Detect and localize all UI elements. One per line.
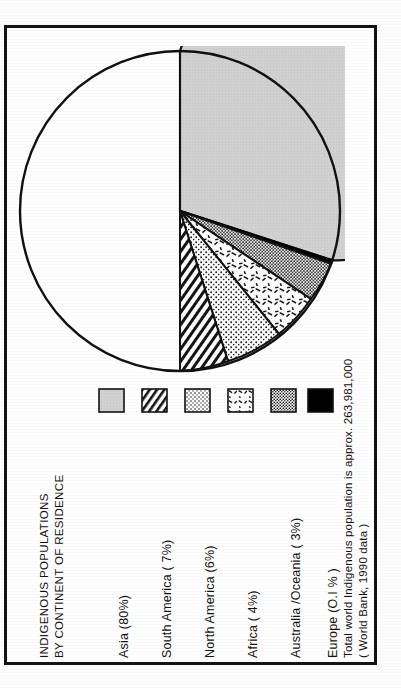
legend-label-south-america: South America ( 7%) bbox=[160, 540, 174, 658]
chart-page: INDIGENOUS POPULATIONS BY CONTINENT OF R… bbox=[0, 0, 401, 688]
legend-swatch-asia bbox=[99, 389, 124, 412]
legend-label-australia-oceania: Australia /Oceania ( 3%) bbox=[289, 518, 303, 658]
legend-label-africa: Africa ( 4%) bbox=[246, 590, 260, 658]
legend-swatch-australia-oceania bbox=[271, 389, 296, 412]
legend-label-north-america: North America (6%) bbox=[203, 545, 217, 658]
legend-swatch-svg bbox=[98, 388, 334, 414]
chart-title-line-1: INDIGENOUS POPULATIONS bbox=[37, 475, 52, 658]
footnote-line-2: ( World Bank, 1990 data ) bbox=[356, 359, 371, 658]
legend-swatch-europe bbox=[308, 389, 333, 412]
legend-label-asia: Asia (80%) bbox=[117, 595, 131, 658]
chart-frame-border: INDIGENOUS POPULATIONS BY CONTINENT OF R… bbox=[4, 25, 377, 665]
legend-swatch-strip bbox=[98, 388, 334, 414]
pie-chart-svg bbox=[15, 46, 345, 376]
chart-title-line-2: BY CONTINENT OF RESIDENCE bbox=[52, 475, 67, 658]
legend-swatch-africa bbox=[228, 389, 253, 412]
legend-swatch-south-america bbox=[142, 389, 167, 412]
chart-footnote: Total world Indigenous population is app… bbox=[341, 359, 371, 658]
legend-label-europe: Europe (O.I % ) bbox=[326, 568, 340, 658]
legend-swatch-north-america bbox=[185, 389, 210, 412]
chart-title: INDIGENOUS POPULATIONS BY CONTINENT OF R… bbox=[37, 475, 67, 658]
footnote-line-1: Total world Indigenous population is app… bbox=[341, 359, 356, 658]
pie-chart bbox=[15, 46, 345, 376]
